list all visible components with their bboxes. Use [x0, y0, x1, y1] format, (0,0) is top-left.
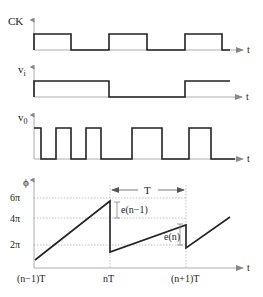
tick-n-plus-1-T: (n+1)T	[171, 273, 199, 285]
vo-panel: v0 t	[18, 111, 250, 164]
vo-label: v0	[18, 111, 28, 126]
vi-time-label: t	[246, 91, 249, 102]
error-label-n: e(n)	[164, 231, 180, 243]
ck-time-label: t	[247, 44, 250, 55]
ck-panel: CK t	[8, 15, 250, 55]
ck-waveform	[34, 34, 230, 50]
vi-label: vi	[18, 63, 27, 78]
tick-n-minus-1-T: (n−1)T	[17, 273, 45, 285]
vo-time-label: t	[247, 153, 250, 164]
tick-nT: nT	[103, 273, 114, 284]
vi-panel: vi t	[18, 63, 249, 102]
phase-time-label: t	[247, 262, 250, 273]
tick-6pi: 6π	[10, 192, 20, 203]
error-label-n-minus-1: e(n−1)	[121, 204, 148, 216]
pll-timing-diagram: CK t vi t v0 t ϕ t 6π 4π 2π	[0, 0, 263, 297]
tick-4pi: 4π	[10, 213, 20, 224]
phase-panel: ϕ t 6π 4π 2π T e(n−1) e(n)	[10, 176, 250, 285]
vo-waveform	[34, 128, 235, 159]
phase-y-label: ϕ	[23, 176, 29, 188]
period-label: T	[144, 184, 151, 196]
vi-waveform	[34, 81, 230, 97]
tick-2pi: 2π	[10, 239, 20, 250]
ck-label: CK	[8, 15, 23, 27]
